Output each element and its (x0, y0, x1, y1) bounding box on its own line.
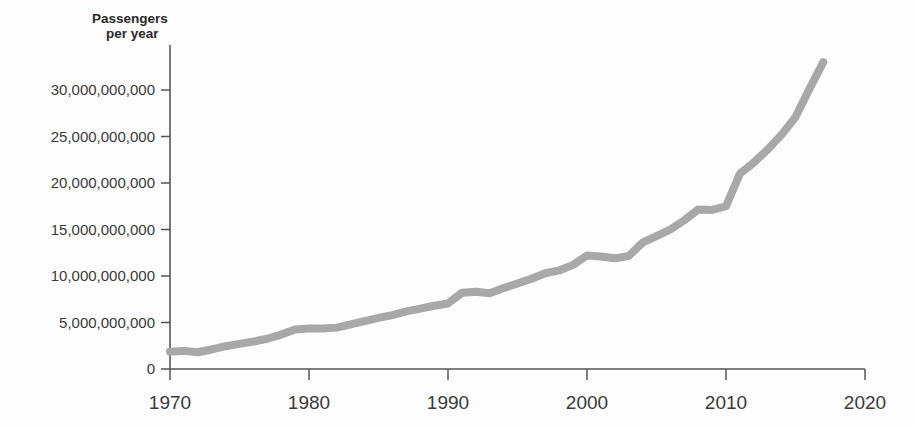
x-tick-label: 1980 (288, 392, 330, 413)
y-axis-title-line-1: Passengers (92, 11, 168, 26)
y-tick-label: 20,000,000,000 (51, 174, 155, 191)
x-tick-label: 2020 (844, 392, 886, 413)
y-tick-label: 0 (147, 360, 155, 377)
y-tick-label: 10,000,000,000 (51, 267, 155, 284)
y-tick-label: 30,000,000,000 (51, 81, 155, 98)
passengers-per-year-line-chart: Passengers per year 05,000,000,00010,000… (0, 0, 915, 428)
x-tick-group: 197019801990200020102020 (149, 369, 886, 413)
y-tick-group: 05,000,000,00010,000,000,00015,000,000,0… (51, 81, 170, 377)
y-tick-label: 15,000,000,000 (51, 221, 155, 238)
passengers-series-line (170, 62, 823, 352)
x-tick-label: 1970 (149, 392, 191, 413)
y-tick-label: 5,000,000,000 (59, 314, 155, 331)
x-axis: 197019801990200020102020 (149, 369, 886, 413)
x-tick-label: 1990 (427, 392, 469, 413)
x-tick-label: 2010 (705, 392, 747, 413)
y-tick-label: 25,000,000,000 (51, 128, 155, 145)
chart-figure: Passengers per year 05,000,000,00010,000… (0, 0, 915, 428)
y-axis: 05,000,000,00010,000,000,00015,000,000,0… (51, 45, 170, 377)
y-axis-title-line-2: per year (106, 26, 159, 41)
x-tick-label: 2000 (566, 392, 608, 413)
